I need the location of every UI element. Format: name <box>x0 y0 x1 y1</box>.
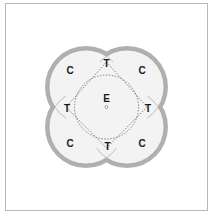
label-t-right: T <box>145 103 151 114</box>
four-circle-diagram: E C C C C T T T T <box>0 0 213 212</box>
label-c-bottom-right: C <box>138 138 145 149</box>
diagram-canvas: E C C C C T T T T <box>0 0 213 212</box>
label-c-top-right: C <box>138 65 145 76</box>
label-t-left: T <box>64 103 70 114</box>
label-t-top: T <box>103 58 109 69</box>
label-t-bottom: T <box>104 141 110 152</box>
label-c-top-left: C <box>66 65 73 76</box>
label-e: E <box>103 93 110 104</box>
center-point <box>105 106 108 109</box>
label-c-bottom-left: C <box>66 138 73 149</box>
